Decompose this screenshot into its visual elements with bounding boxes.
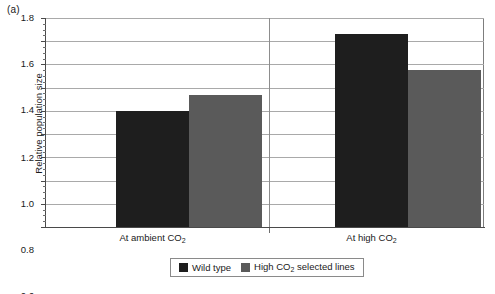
panel-label: (a)	[7, 4, 20, 16]
figure-panel-a: (a) Relative population size 00.20.40.60…	[0, 0, 495, 294]
y-tick-minor	[43, 24, 46, 25]
y-tick-minor	[43, 163, 46, 164]
y-tick-minor	[43, 221, 46, 222]
y-tick-major: 1.2	[41, 88, 46, 89]
bar-selected-lines-group-1	[189, 95, 262, 227]
bar-wild-type-group-2	[335, 34, 408, 227]
y-tick-minor	[43, 70, 46, 71]
legend-label: High CO2 selected lines	[254, 262, 355, 273]
gridline	[46, 41, 484, 42]
y-tick-minor	[43, 140, 46, 141]
y-tick-label: 1.6	[21, 59, 34, 69]
plot-border-right	[483, 18, 484, 227]
legend-label: Wild type	[192, 263, 231, 273]
category-divider-tick	[269, 228, 270, 233]
legend-swatch-icon	[241, 263, 250, 272]
y-tick-major: 1.4	[41, 64, 46, 65]
gridline	[46, 64, 484, 65]
chart-legend: Wild typeHigh CO2 selected lines	[170, 258, 364, 277]
y-tick-minor	[43, 59, 46, 60]
category-divider	[269, 18, 270, 227]
legend-swatch-icon	[179, 263, 188, 272]
y-tick-minor	[43, 35, 46, 36]
y-tick-minor	[43, 146, 46, 147]
y-tick-minor	[43, 175, 46, 176]
y-tick-minor	[43, 99, 46, 100]
bar-selected-lines-group-2	[408, 70, 481, 227]
y-tick-minor	[43, 210, 46, 211]
y-tick-label: 1.2	[21, 153, 34, 163]
y-tick-minor	[43, 117, 46, 118]
y-tick-label: 1.4	[21, 105, 34, 115]
y-tick-minor	[43, 215, 46, 216]
y-axis-title: Relative population size	[33, 24, 44, 224]
y-tick-major: 1.0	[41, 111, 46, 112]
y-tick-label: 1.8	[21, 13, 34, 23]
y-tick-minor	[43, 76, 46, 77]
x-axis-line	[45, 227, 485, 228]
legend-entry-selected-lines: High CO2 selected lines	[241, 262, 355, 273]
y-tick-minor	[43, 93, 46, 94]
plot-area: 00.20.40.60.81.01.21.41.61.8	[46, 18, 484, 227]
x-tick-label-group-1: At ambient CO2	[119, 232, 185, 244]
y-tick-major: 0.6	[41, 157, 46, 158]
y-tick-major: 1.6	[41, 41, 46, 42]
y-tick-minor	[43, 192, 46, 193]
y-tick-minor	[43, 30, 46, 31]
y-tick-minor	[43, 53, 46, 54]
y-tick-label: 1.0	[21, 199, 34, 209]
gridline	[46, 18, 484, 19]
bar-wild-type-group-1	[116, 111, 189, 227]
y-tick-minor	[43, 82, 46, 83]
legend-entry-wild-type: Wild type	[179, 263, 231, 273]
y-tick-major: 0.8	[41, 134, 46, 135]
y-tick-minor	[43, 169, 46, 170]
y-tick-minor	[43, 152, 46, 153]
y-tick-minor	[43, 122, 46, 123]
y-tick-major: 1.8	[41, 18, 46, 19]
y-tick-major: 0.2	[41, 204, 46, 205]
y-tick-minor	[43, 198, 46, 199]
y-tick-minor	[43, 186, 46, 187]
y-tick-label: 0.8	[21, 245, 34, 255]
y-tick-minor	[43, 47, 46, 48]
y-tick-major: 0	[41, 227, 46, 228]
y-tick-major: 0.4	[41, 181, 46, 182]
x-tick-label-group-2: At high CO2	[346, 232, 396, 244]
y-tick-minor	[43, 128, 46, 129]
y-tick-minor	[43, 105, 46, 106]
